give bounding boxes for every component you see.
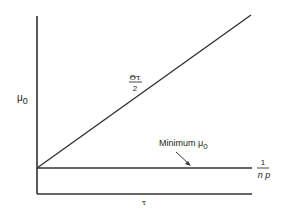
minimum-label: Minimum μ0	[159, 138, 208, 151]
baseline-label-numerator: 1	[261, 158, 266, 167]
baseline-label-denominator: n p	[258, 170, 271, 180]
x-axis-label: τ	[142, 198, 147, 207]
mu0-vs-tau-diagram: μ0 Θτ 2 Minimum μ0 1 n p τ	[0, 0, 286, 213]
diagonal-label-denominator: 2	[133, 84, 138, 93]
diagonal-label-numerator: Θτ	[130, 73, 142, 82]
diagonal-line	[37, 15, 251, 168]
y-axis-label: μ0	[17, 92, 28, 106]
